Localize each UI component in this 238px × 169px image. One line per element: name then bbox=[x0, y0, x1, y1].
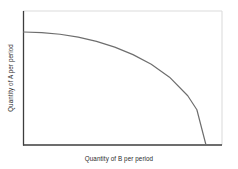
chart-figure: Quantity of A per period Quantity of B p… bbox=[0, 0, 238, 169]
y-axis-label: Quantity of A per period bbox=[8, 44, 14, 112]
plot-area bbox=[0, 0, 238, 169]
y-axis-label-container: Quantity of A per period bbox=[0, 11, 22, 145]
plot-background bbox=[23, 11, 222, 145]
x-axis-label: Quantity of B per period bbox=[0, 156, 238, 162]
